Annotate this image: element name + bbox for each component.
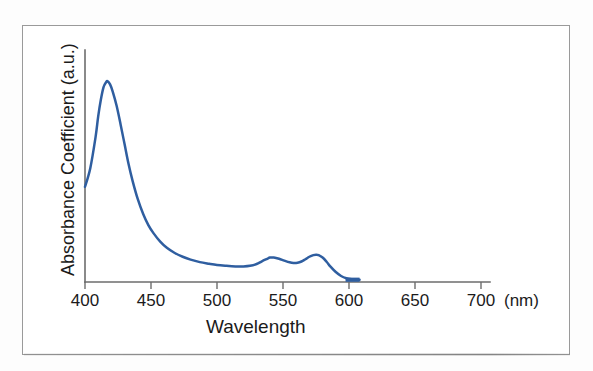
x-tick-label-500: 500 <box>194 291 240 311</box>
x-tick-label-700: 700 <box>458 291 504 311</box>
x-axis-unit: (nm) <box>504 291 539 311</box>
spectrum-curve <box>85 81 360 280</box>
x-tick-label-600: 600 <box>326 291 372 311</box>
plot-area: 400 450 500 550 600 650 700 (nm) Wavelen… <box>0 0 593 371</box>
x-tick-label-450: 450 <box>128 291 174 311</box>
scanned-page: 400 450 500 550 600 650 700 (nm) Wavelen… <box>0 0 593 371</box>
x-tick-label-400: 400 <box>62 291 108 311</box>
x-tick-label-650: 650 <box>392 291 438 311</box>
x-axis-title: Wavelength <box>206 316 306 338</box>
x-tick-label-550: 550 <box>260 291 306 311</box>
x-axis-ticks <box>85 282 481 289</box>
y-axis-title: Absorbance Coefficient (a.u.) <box>58 43 79 276</box>
